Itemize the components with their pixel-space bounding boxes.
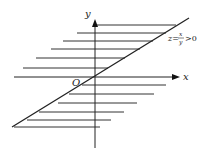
y-axis-label: y (84, 8, 91, 19)
curve-label-denominator: y (178, 38, 183, 46)
y-axis-arrow-icon (92, 19, 98, 27)
curve-label-rhs: >0 (185, 34, 197, 43)
curve-label-numerator: x (179, 30, 183, 37)
boundary-line (12, 18, 189, 127)
origin-label: O (72, 77, 80, 88)
x-axis-arrow-icon (172, 74, 180, 80)
curve-label: z= x y >0 (167, 30, 197, 46)
x-axis-label: x (183, 71, 189, 82)
curve-label-lhs: z= (167, 34, 179, 43)
region-diagram: y x O z= x y >0 (0, 0, 208, 160)
